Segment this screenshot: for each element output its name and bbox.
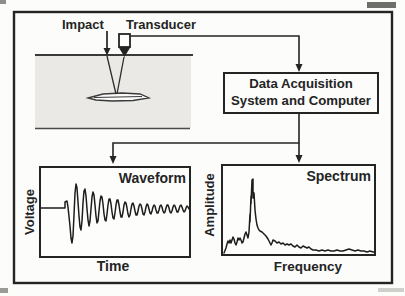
waveform-xlabel: Time [97,258,130,274]
transducer-body [119,34,130,47]
scan-artifact [378,288,404,292]
scan-artifact [0,0,6,4]
transducer-label: Transducer [126,17,196,32]
waveform-ylabel: Voltage [22,189,37,235]
impact-echo-figure: Data Acquisition System and Computer Imp… [0,0,405,296]
spectrum-arrowhead-icon [296,155,303,163]
daq-input-arrowhead-icon [296,64,303,72]
spectrum-xlabel: Frequency [274,259,343,274]
daq-label-line1: Data Acquisition [249,76,353,91]
waveform-arrowhead-icon [110,156,117,164]
daq-label-line2: System and Computer [231,93,371,108]
scan-artifact [367,2,396,8]
concrete-slab [35,56,191,128]
spectrum-ylabel: Amplitude [202,173,217,237]
diagram-canvas: Data Acquisition System and Computer Imp… [0,0,405,296]
waveform-title: Waveform [119,170,186,186]
scan-artifact [0,288,8,293]
spectrum-title: Spectrum [306,168,371,184]
impact-label: Impact [62,17,105,32]
